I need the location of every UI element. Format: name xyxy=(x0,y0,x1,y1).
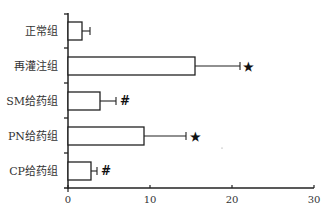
error-bar xyxy=(100,97,116,105)
significance-hash-icon: # xyxy=(101,164,111,178)
error-bar xyxy=(82,27,90,35)
bar-pn xyxy=(68,127,144,145)
error-bar xyxy=(91,167,97,175)
significance-star-icon: ★ xyxy=(190,130,201,144)
error-bar xyxy=(195,62,240,70)
x-tick-label: 10 xyxy=(144,194,157,205)
error-bar xyxy=(144,132,186,140)
speck xyxy=(221,147,222,148)
bar-normal xyxy=(68,22,82,40)
bar-sm xyxy=(68,92,100,110)
bar-chart: 0 10 20 30 正常组 再灌注组 SM给药组 PN给药组 CP给药组 xyxy=(0,0,330,217)
category-label: PN给药组 xyxy=(8,129,58,143)
category-label: CP给药组 xyxy=(9,164,58,178)
x-tick-label: 30 xyxy=(308,194,321,205)
x-tick-label: 20 xyxy=(226,194,239,205)
bar-reperfusion xyxy=(68,57,195,75)
category-label: SM给药组 xyxy=(6,94,58,108)
category-label: 再灌注组 xyxy=(14,59,58,73)
bar-cp xyxy=(68,162,91,180)
significance-star-icon: ★ xyxy=(243,60,254,74)
category-label: 正常组 xyxy=(25,24,58,38)
x-tick-label: 0 xyxy=(65,194,71,205)
significance-hash-icon: # xyxy=(120,94,130,108)
